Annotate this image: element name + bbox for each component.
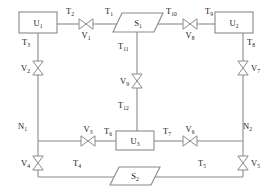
stream-label-t9: T9 xyxy=(205,6,213,17)
stream-label-t6: T6 xyxy=(104,126,112,137)
valve-v5[interactable]: V5 xyxy=(238,156,260,170)
valve-wing-1 xyxy=(33,61,43,68)
node-label-n2: N2 xyxy=(243,121,252,132)
valve-wing-2 xyxy=(33,163,43,170)
valve-wing-2 xyxy=(190,136,197,146)
valve-wing-2 xyxy=(132,81,142,88)
valve-label-v4: V4 xyxy=(21,158,30,169)
process-flow-diagram: U1U2U3 S1S2 V1V2V3V4V5V6V7V8V9 T1T2T3T4T… xyxy=(0,0,270,195)
stream-label-t7: T7 xyxy=(163,126,171,137)
pipes-layer xyxy=(38,24,243,177)
valve-wing-2 xyxy=(238,163,248,170)
stream-label-t8: T8 xyxy=(247,37,255,48)
valve-label-v6: V6 xyxy=(186,124,195,135)
valve-wing-1 xyxy=(183,19,190,29)
valve-wing-1 xyxy=(79,19,86,29)
valve-wing-2 xyxy=(238,68,248,75)
valve-wing-1 xyxy=(81,136,88,146)
valve-label-v5: V5 xyxy=(251,158,260,169)
valve-label-v7: V7 xyxy=(251,63,260,74)
stream-label-t10: T10 xyxy=(166,6,177,17)
valve-wing-1 xyxy=(33,156,43,163)
unit-u2[interactable]: U2 xyxy=(215,12,253,33)
valve-label-v3: V3 xyxy=(84,124,93,135)
valve-v4[interactable]: V4 xyxy=(21,156,43,170)
valve-wing-1 xyxy=(132,74,142,81)
valve-v1[interactable]: V1 xyxy=(79,19,93,41)
stream-label-t2: T2 xyxy=(66,6,74,17)
valve-wing-2 xyxy=(86,19,93,29)
valve-wing-2 xyxy=(88,136,95,146)
valve-label-v1: V1 xyxy=(82,30,91,41)
valve-v7[interactable]: V7 xyxy=(238,61,260,75)
source-s2[interactable]: S2 xyxy=(110,167,160,185)
stream-label-t4: T4 xyxy=(73,158,81,169)
valve-wing-2 xyxy=(190,19,197,29)
valve-label-v9: V9 xyxy=(120,76,129,87)
stream-label-t11: T11 xyxy=(118,41,129,52)
unit-u1[interactable]: U1 xyxy=(19,12,57,33)
valve-v2[interactable]: V2 xyxy=(21,61,43,75)
stream-label-t1: T1 xyxy=(105,6,113,17)
valve-wing-1 xyxy=(183,136,190,146)
valve-wing-1 xyxy=(238,61,248,68)
valve-v9[interactable]: V9 xyxy=(120,74,142,88)
source-s1[interactable]: S1 xyxy=(113,13,163,32)
valve-label-v8: V8 xyxy=(186,30,195,41)
valve-v3[interactable]: V3 xyxy=(81,124,95,146)
valve-v6[interactable]: V6 xyxy=(183,124,197,146)
valve-v8[interactable]: V8 xyxy=(183,19,197,41)
unit-u3[interactable]: U3 xyxy=(116,131,154,150)
stream-label-t3: T3 xyxy=(22,37,30,48)
valve-wing-1 xyxy=(238,156,248,163)
valve-wing-2 xyxy=(33,68,43,75)
node-label-n1: N1 xyxy=(18,121,27,132)
units-layer: U1U2U3 xyxy=(19,12,253,150)
stream-label-t5: T5 xyxy=(198,158,206,169)
stream-label-t12: T12 xyxy=(118,100,129,111)
valve-label-v2: V2 xyxy=(21,63,30,74)
